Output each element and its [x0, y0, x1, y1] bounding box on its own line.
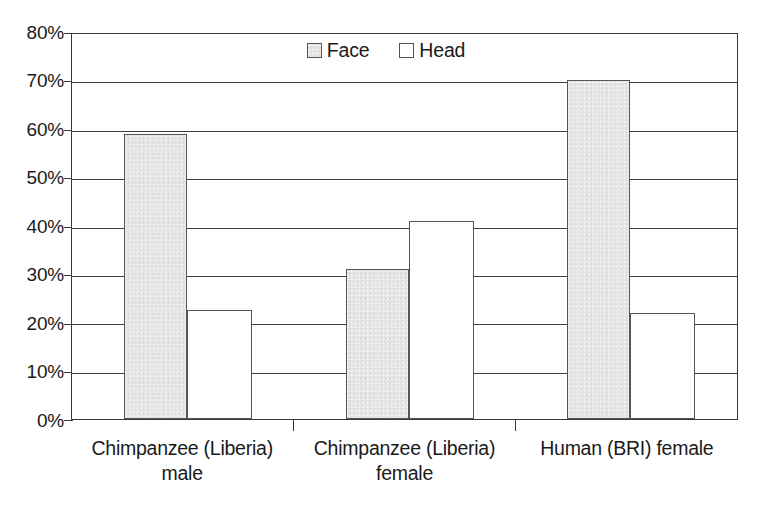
y-axis: 80% 70% 60% 50% 40% 30% 20% 10% 0%	[0, 0, 64, 514]
bar-head-chimpanzee-liberia-female	[409, 221, 474, 419]
y-axis-tick-mark	[64, 420, 73, 421]
bar-face-chimpanzee-liberia-male	[124, 134, 187, 419]
x-axis-category-label: Chimpanzee (Liberia) female	[293, 436, 515, 510]
x-axis-category-label: Human (BRI) female	[516, 436, 738, 510]
x-axis: Chimpanzee (Liberia) male Chimpanzee (Li…	[71, 436, 738, 510]
y-axis-tick-label: 10%	[6, 362, 64, 381]
y-axis-tick-label: 70%	[6, 71, 64, 90]
plot-area	[71, 33, 738, 420]
bar-head-human-bri-female	[630, 313, 695, 419]
x-axis-tick-mark	[293, 420, 294, 431]
y-axis-tick-label: 80%	[6, 23, 64, 42]
x-axis-category-label: Chimpanzee (Liberia) male	[71, 436, 293, 510]
y-axis-tick-label: 60%	[6, 120, 64, 139]
gridline	[72, 82, 737, 83]
bar-head-chimpanzee-liberia-male	[187, 310, 252, 419]
x-axis-tick-mark	[515, 420, 516, 431]
y-axis-tick-label: 0%	[6, 411, 64, 430]
bar-chart: 80% 70% 60% 50% 40% 30% 20% 10% 0%	[0, 0, 772, 514]
y-axis-tick-label: 20%	[6, 314, 64, 333]
y-axis-tick-label: 40%	[6, 217, 64, 236]
gridline	[72, 131, 737, 132]
bar-face-human-bri-female	[567, 80, 630, 419]
bar-face-chimpanzee-liberia-female	[346, 269, 409, 419]
y-axis-tick-label: 30%	[6, 265, 64, 284]
y-axis-tick-label: 50%	[6, 168, 64, 187]
